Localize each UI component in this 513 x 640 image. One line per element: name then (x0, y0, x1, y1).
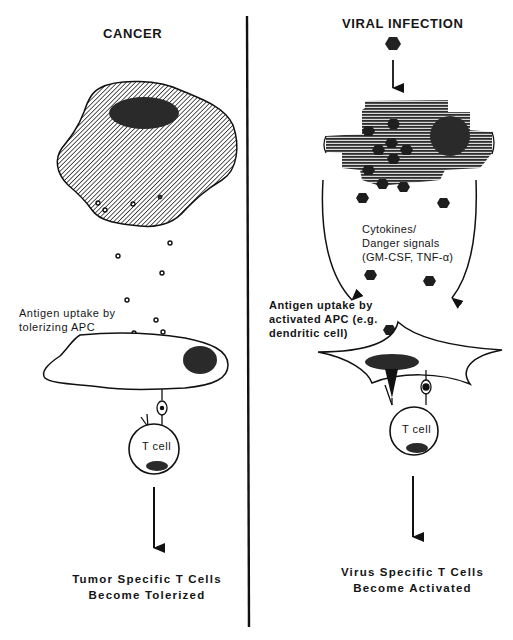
tolerizing-apc-label-line2: tolerizing APC (19, 320, 116, 334)
t-cell-left-label: T cell (142, 440, 171, 452)
tumor-cell (57, 81, 237, 226)
activated-apc-label: Antigen uptake by activated APC (e.g. de… (269, 298, 378, 340)
right-outcome-line1: Virus Specific T Cells (325, 564, 500, 580)
infected-nucleus (430, 116, 470, 156)
dc-nucleus (365, 354, 419, 370)
activated-apc-label-line3: dendritic cell) (269, 326, 378, 340)
left-outcome-line1: Tumor Specific T Cells (62, 571, 232, 587)
right-panel-title: VIRAL INFECTION (342, 16, 463, 32)
tumor-nucleus (109, 97, 179, 129)
right-outcome-label: Virus Specific T Cells Become Activated (325, 564, 500, 596)
panel-divider (247, 16, 249, 627)
virus-particle-top (385, 37, 401, 50)
tolerizing-apc-label-line1: Antigen uptake by (19, 306, 116, 320)
right-outcome-line2: Become Activated (325, 580, 500, 596)
tolerizing-apc-label: Antigen uptake by tolerizing APC (19, 306, 116, 334)
tcr-mhc-left (141, 389, 167, 427)
left-outcome-label: Tumor Specific T Cells Become Tolerized (62, 571, 232, 603)
antigen-particles (116, 241, 172, 335)
apc-nucleus (183, 346, 217, 374)
cytokine-label-line3: (GM-CSF, TNF-α) (362, 250, 453, 264)
activated-apc-label-line2: activated APC (e.g. (269, 312, 378, 326)
cytokine-label-line1: Cytokines/ (362, 222, 453, 236)
activated-apc-label-line1: Antigen uptake by (269, 298, 378, 312)
tolerizing-apc (43, 333, 228, 389)
cytokine-label-line2: Danger signals (362, 236, 453, 250)
left-outcome-line2: Become Tolerized (62, 587, 232, 603)
cytokine-label: Cytokines/ Danger signals (GM-CSF, TNF-α… (362, 222, 453, 264)
t-cell-right-label: T cell (402, 423, 431, 435)
left-panel-title: CANCER (103, 26, 162, 42)
infected-cell (324, 100, 494, 208)
